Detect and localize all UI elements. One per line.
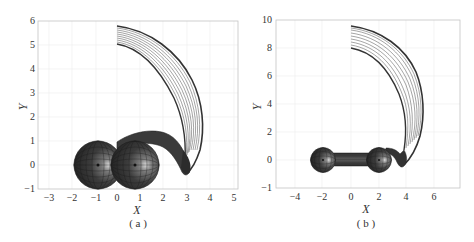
svg-text:10: 10 [262, 14, 272, 25]
panel-b: −4 −2 0 2 4 6 −1 0 2 4 6 8 10 X Y ( b ) [250, 14, 460, 230]
svg-text:−1: −1 [261, 182, 272, 193]
y-tick-labels-b: −1 0 2 4 6 8 10 [261, 14, 272, 193]
svg-text:4: 4 [208, 192, 213, 203]
svg-text:0: 0 [349, 191, 354, 202]
caption-a: ( a ) [129, 217, 147, 230]
trajectory-sweep-b [351, 26, 423, 165]
svg-text:0: 0 [115, 192, 120, 203]
svg-text:−4: −4 [290, 191, 301, 202]
svg-text:4: 4 [404, 191, 409, 202]
y-axis-label-b: Y [250, 102, 264, 110]
svg-text:5: 5 [232, 192, 237, 203]
svg-text:2: 2 [30, 111, 35, 122]
svg-text:2: 2 [377, 191, 382, 202]
svg-text:−1: −1 [91, 192, 102, 203]
svg-text:3: 3 [185, 192, 190, 203]
svg-text:−2: −2 [67, 192, 78, 203]
svg-text:−2: −2 [317, 191, 328, 202]
svg-text:5: 5 [30, 39, 35, 50]
panel-a: −3 −2 −1 0 1 2 3 4 5 −1 0 1 2 3 4 5 6 X … [16, 15, 238, 230]
sphere-left-b [311, 148, 336, 173]
x-tick-labels-b: −4 −2 0 2 4 6 [290, 191, 437, 202]
svg-text:−1: −1 [24, 183, 35, 194]
svg-text:2: 2 [161, 192, 166, 203]
svg-text:3: 3 [30, 87, 35, 98]
figure: −3 −2 −1 0 1 2 3 4 5 −1 0 1 2 3 4 5 6 X … [0, 0, 474, 242]
svg-text:6: 6 [432, 191, 437, 202]
svg-text:0: 0 [30, 159, 35, 170]
svg-text:8: 8 [267, 42, 272, 53]
sphere-right-a [111, 141, 159, 189]
y-axis-label-a: Y [16, 102, 30, 110]
x-axis-label-b: X [361, 202, 370, 216]
svg-text:6: 6 [30, 15, 35, 26]
x-tick-labels-a: −3 −2 −1 0 1 2 3 4 5 [44, 192, 237, 203]
svg-text:4: 4 [30, 63, 35, 74]
svg-text:−3: −3 [44, 192, 55, 203]
svg-text:4: 4 [267, 98, 272, 109]
x-axis-label-a: X [132, 203, 141, 217]
svg-text:1: 1 [138, 192, 143, 203]
caption-b: ( b ) [357, 217, 376, 230]
sphere-right-b [367, 148, 392, 173]
svg-text:6: 6 [267, 70, 272, 81]
svg-text:2: 2 [267, 126, 272, 137]
svg-text:1: 1 [30, 135, 35, 146]
svg-text:0: 0 [267, 154, 272, 165]
